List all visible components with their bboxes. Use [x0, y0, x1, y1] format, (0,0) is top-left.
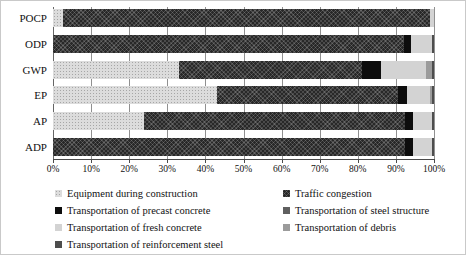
legend-swatch: [55, 207, 62, 214]
category-label-adp: ADP: [1, 138, 47, 156]
legend-item: Traffic congestion: [283, 185, 429, 202]
legend-label: Transportation of precast concrete: [67, 205, 210, 216]
x-axis-line: [53, 159, 435, 160]
x-tick-label: 70%: [311, 164, 328, 174]
bar-segment: [405, 138, 413, 156]
x-tick-label: 20%: [120, 164, 137, 174]
bar-segment: [405, 112, 413, 130]
bar-segment: [144, 112, 405, 130]
legend-label: Transportation of debris: [295, 222, 396, 233]
legend-item: Transportation of precast concrete: [55, 202, 283, 219]
legend-label: Traffic congestion: [295, 188, 372, 199]
x-tick-label: 50%: [235, 164, 252, 174]
legend-swatch: [55, 224, 62, 231]
legend-item: Transportation of fresh concrete: [55, 219, 283, 236]
bar-segment: [63, 9, 431, 27]
bar-segment: [432, 35, 434, 53]
bar-segment: [381, 61, 427, 79]
bar-segment: [413, 112, 432, 130]
gridline-50%: [244, 7, 245, 159]
bar-segment: [398, 86, 408, 104]
bar-ap: [53, 112, 434, 130]
bar-ep: [53, 86, 434, 104]
x-tick-label: 30%: [159, 164, 176, 174]
legend-swatch: [283, 190, 290, 197]
bar-adp: [53, 138, 434, 156]
bar-odp: [53, 35, 434, 53]
stacked-bar-chart-figure: 0%10%20%30%40%50%60%70%80%90%100%POCPODP…: [0, 0, 466, 255]
gridline-10%: [91, 7, 92, 159]
legend-label: Transportation of fresh concrete: [67, 222, 202, 233]
gridline-80%: [358, 7, 359, 159]
legend-item: Transportation of steel structure: [283, 202, 429, 219]
legend: Equipment during constructionTransportat…: [55, 185, 429, 253]
category-label-pocp: POCP: [1, 9, 47, 27]
legend-item: Equipment during construction: [55, 185, 283, 202]
x-tick-label: 80%: [349, 164, 366, 174]
bar-segment: [432, 61, 434, 79]
gridline-60%: [282, 7, 283, 159]
bar-segment: [413, 138, 432, 156]
bar-segment: [432, 138, 434, 156]
bar-segment: [411, 35, 432, 53]
x-tick-label: 10%: [82, 164, 99, 174]
legend-swatch: [55, 241, 62, 248]
bar-segment: [432, 86, 434, 104]
gridline-40%: [205, 7, 206, 159]
bar-segment: [217, 86, 398, 104]
bar-segment: [179, 61, 362, 79]
gridline-0%: [53, 7, 54, 159]
category-label-gwp: GWP: [1, 61, 47, 79]
x-tick-label: 40%: [197, 164, 214, 174]
legend-column-1: Traffic congestionTransportation of stee…: [283, 185, 429, 253]
bar-segment: [53, 35, 404, 53]
gridline-70%: [320, 7, 321, 159]
legend-item: Transportation of reinforcement steel: [55, 236, 283, 253]
bar-segment: [432, 112, 434, 130]
legend-label: Equipment during construction: [67, 188, 198, 199]
bar-segment: [430, 9, 434, 27]
bar-segment: [53, 86, 217, 104]
bar-gwp: [53, 61, 434, 79]
bar-pocp: [53, 9, 434, 27]
category-label-odp: ODP: [1, 35, 47, 53]
category-label-ep: EP: [1, 86, 47, 104]
bar-segment: [53, 112, 144, 130]
category-label-ap: AP: [1, 112, 47, 130]
gridline-90%: [396, 7, 397, 159]
gridline-30%: [167, 7, 168, 159]
bar-segment: [404, 35, 412, 53]
legend-item: Transportation of debris: [283, 219, 429, 236]
x-tick-label: 0%: [47, 164, 60, 174]
x-tick-label: 90%: [387, 164, 404, 174]
x-tick-label: 100%: [423, 164, 445, 174]
legend-swatch: [55, 190, 62, 197]
legend-column-0: Equipment during constructionTransportat…: [55, 185, 283, 253]
bar-segment: [53, 9, 63, 27]
x-tick-label: 60%: [273, 164, 290, 174]
legend-label: Transportation of reinforcement steel: [67, 239, 223, 250]
legend-swatch: [283, 224, 290, 231]
gridline-100%: [434, 7, 435, 159]
bar-segment: [53, 61, 179, 79]
bar-segment: [407, 86, 430, 104]
legend-swatch: [283, 207, 290, 214]
bar-segment: [362, 61, 381, 79]
legend-label: Transportation of steel structure: [295, 205, 429, 216]
gridline-20%: [129, 7, 130, 159]
bar-segment: [53, 138, 405, 156]
